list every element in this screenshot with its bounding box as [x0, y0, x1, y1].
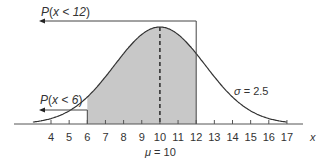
- shaded-area-6-to-12: [87, 27, 196, 124]
- arrowhead-left-icon: [39, 108, 45, 113]
- tick-label: 13: [208, 131, 220, 143]
- tick-label: 17: [281, 131, 293, 143]
- mu-label: μ = 10: [144, 146, 176, 158]
- tick-label: 7: [102, 131, 108, 143]
- tick-label: 10: [154, 131, 166, 143]
- tick-label: 5: [66, 131, 72, 143]
- x-axis-label: x: [309, 131, 316, 143]
- tick-label: 15: [245, 131, 257, 143]
- tick-label: 9: [139, 131, 145, 143]
- normal-distribution-diagram: 4567891011121314151617 P(x < 12) P(x < 6…: [0, 0, 327, 164]
- tick-label: 12: [190, 131, 202, 143]
- tick-label: 4: [48, 131, 54, 143]
- tick-label: 11: [172, 131, 183, 143]
- tick-label: 14: [226, 131, 238, 143]
- annotation-p-less-6: P(x < 6): [40, 93, 82, 107]
- arrowhead-left-icon: [39, 19, 45, 24]
- sigma-label: σ = 2.5: [234, 85, 268, 97]
- tick-label: 8: [121, 131, 127, 143]
- x-axis-tick-labels: 4567891011121314151617: [48, 131, 293, 143]
- annotation-p-less-12: P(x < 12): [41, 5, 90, 19]
- tick-label: 6: [84, 131, 90, 143]
- tick-label: 16: [263, 131, 275, 143]
